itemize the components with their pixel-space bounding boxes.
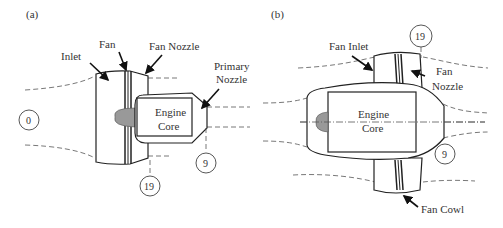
primary-nozzle-arrow: [202, 89, 219, 108]
inlet-label: Inlet: [61, 50, 81, 62]
svg-text:9: 9: [442, 149, 447, 160]
panel-a: (a) Engine Core 0 19: [19, 8, 250, 196]
svg-text:0: 0: [26, 115, 31, 126]
station-19-b: 19: [410, 25, 432, 47]
panel-a-tag: (a): [26, 8, 39, 21]
engine-core-label: Engine: [155, 106, 186, 118]
panel-b-tag: (b): [271, 8, 284, 21]
station-9-a: 9: [196, 153, 216, 173]
fan-inlet-label: Fan Inlet: [329, 40, 368, 52]
turbofan-diagram: (a) Engine Core 0 19: [0, 0, 503, 228]
svg-text:19: 19: [144, 181, 154, 192]
panel-b: (b) Engine Core 19: [263, 8, 488, 215]
fan-inlet-arrow: [352, 56, 372, 70]
fan-nozzle-arrow: [146, 55, 162, 73]
station-9-b: 9: [435, 144, 455, 164]
primary-nozzle-label: Primary: [214, 60, 250, 72]
fan-label: Fan: [99, 38, 116, 50]
engine-core-label-b: Engine: [358, 108, 389, 120]
station-19-a: 19: [140, 176, 160, 196]
fan-cowl-label: Fan Cowl: [421, 203, 464, 215]
svg-text:9: 9: [203, 158, 208, 169]
engine-core-label-b-2: Core: [362, 122, 384, 134]
primary-nozzle-label-2: Nozzle: [216, 73, 247, 85]
fan-arrow: [119, 52, 126, 70]
fan-cowl-arrow: [404, 196, 418, 207]
station-0: 0: [19, 110, 39, 130]
fan-nozzle-label-b: Fan: [436, 65, 453, 77]
svg-text:19: 19: [415, 31, 425, 42]
engine-core-label-2: Core: [158, 120, 180, 132]
fan-nozzle-label: Fan Nozzle: [149, 40, 200, 52]
streamline-lower: [25, 145, 95, 158]
fan-nozzle-label-b-2: Nozzle: [432, 80, 463, 92]
streamline-upper: [25, 76, 95, 90]
